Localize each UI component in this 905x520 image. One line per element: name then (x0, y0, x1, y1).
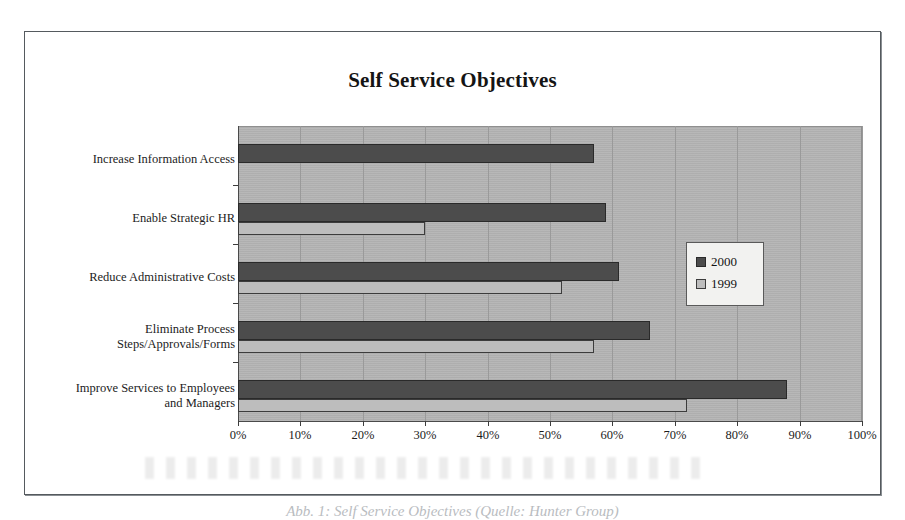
bar-2000-2 (238, 262, 619, 281)
x-axis-label-10: 10% (275, 428, 325, 443)
figure-frame: Self Service Objectives Increase Informa… (24, 31, 881, 495)
bar-1999-1 (238, 222, 425, 235)
bar-2000-0 (238, 144, 594, 163)
gridline-70 (675, 126, 676, 421)
y-axis-tick-1 (233, 185, 238, 186)
x-axis-tick-10 (300, 421, 301, 426)
x-axis-label-0: 0% (213, 428, 263, 443)
y-axis-label-2: Reduce Administrative Costs (35, 270, 235, 285)
y-axis-label-4-line-1: and Managers (35, 396, 235, 411)
legend-swatch-2000-icon (696, 257, 706, 267)
y-axis-tick-4 (233, 362, 238, 363)
bar-2000-4 (238, 380, 787, 399)
y-axis-label-4: Improve Services to Employeesand Manager… (35, 381, 235, 411)
x-axis-label-40: 40% (463, 428, 513, 443)
gridline-90 (800, 126, 801, 421)
y-axis-label-0: Increase Information Access (35, 152, 235, 167)
bar-1999-3 (238, 340, 594, 353)
bar-1999-2 (238, 281, 562, 294)
y-axis-label-4-line-0: Improve Services to Employees (35, 381, 235, 396)
x-axis-tick-30 (425, 421, 426, 426)
x-axis-label-90: 90% (775, 428, 825, 443)
figure-caption: Abb. 1: Self Service Objectives (Quelle:… (0, 503, 905, 520)
bar-1999-4 (238, 399, 687, 412)
x-axis-label-80: 80% (712, 428, 762, 443)
x-axis-label-60: 60% (587, 428, 637, 443)
legend-item-1999: 1999 (696, 273, 763, 295)
gridline-100 (862, 126, 863, 421)
y-axis-label-3: Eliminate ProcessSteps/Approvals/Forms (35, 322, 235, 352)
x-axis-label-50: 50% (525, 428, 575, 443)
y-axis-label-1: Enable Strategic HR (35, 211, 235, 226)
legend-item-2000: 2000 (696, 251, 763, 273)
x-axis-tick-50 (550, 421, 551, 426)
y-axis-category-labels: Increase Information AccessEnable Strate… (30, 126, 235, 421)
x-axis-label-30: 30% (400, 428, 450, 443)
x-axis-tick-90 (800, 421, 801, 426)
chart-title: Self Service Objectives (25, 68, 880, 93)
x-axis-label-70: 70% (650, 428, 700, 443)
x-axis-tick-60 (612, 421, 613, 426)
legend-label-2000: 2000 (711, 254, 737, 270)
bar-2000-3 (238, 321, 650, 340)
x-axis-tick-70 (675, 421, 676, 426)
x-axis-label-20: 20% (338, 428, 388, 443)
legend-label-1999: 1999 (711, 276, 737, 292)
scan-artifact (145, 457, 705, 479)
y-axis-label-3-line-0: Eliminate Process (35, 322, 235, 337)
y-axis-tick-2 (233, 244, 238, 245)
x-axis-tick-80 (737, 421, 738, 426)
chart-legend: 2000 1999 (686, 242, 764, 306)
bar-2000-1 (238, 203, 606, 222)
y-axis-tick-3 (233, 303, 238, 304)
x-axis-tick-0 (238, 421, 239, 426)
x-axis-tick-40 (488, 421, 489, 426)
y-axis-label-3-line-1: Steps/Approvals/Forms (35, 337, 235, 352)
y-axis-label-1-line-0: Enable Strategic HR (35, 211, 235, 226)
x-axis-tick-20 (363, 421, 364, 426)
y-axis-label-2-line-0: Reduce Administrative Costs (35, 270, 235, 285)
x-axis-label-100: 100% (837, 428, 887, 443)
legend-swatch-1999-icon (696, 279, 706, 289)
x-axis-tick-100 (862, 421, 863, 426)
y-axis-label-0-line-0: Increase Information Access (35, 152, 235, 167)
